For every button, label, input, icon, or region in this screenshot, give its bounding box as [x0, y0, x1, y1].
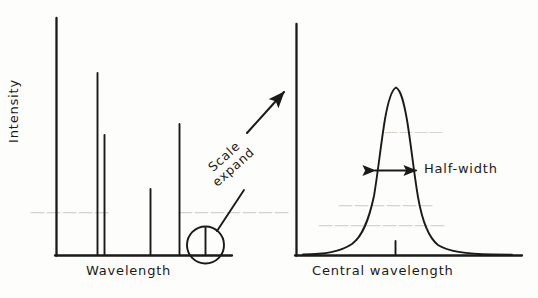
scale-expand-arrow — [247, 92, 284, 133]
spectral-lines — [98, 73, 206, 255]
right-panel-axes — [295, 24, 522, 256]
figure-canvas: ————— ——————— ———— —————— ———————— — [0, 0, 538, 298]
x-axis-label-wavelength: Wavelength — [86, 263, 171, 278]
callout-leader-line — [217, 190, 244, 231]
left-panel-axes — [55, 18, 232, 256]
x-axis-label-central-wavelength: Central wavelength — [312, 263, 454, 278]
half-width-label: Half-width — [424, 161, 498, 176]
y-axis-label-intensity: Intensity — [6, 56, 21, 166]
diagram-svg — [0, 0, 538, 298]
